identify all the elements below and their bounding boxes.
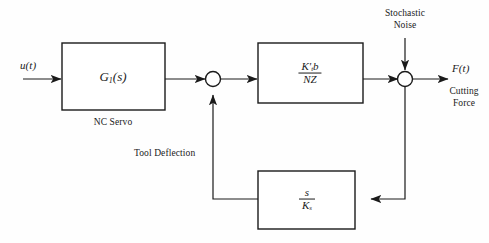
nc-servo-expr-tail: (s)	[113, 69, 127, 84]
block-diagram-canvas: u(t) G1(s) NC Servo K'tb NZ s Ks Stochas…	[0, 0, 489, 243]
output-caption-line2: Force	[453, 98, 475, 109]
signal-feedback-tap-down	[371, 87, 405, 199]
process-gain-denominator: NZ	[298, 74, 321, 86]
summing-junction-right	[398, 72, 413, 87]
disturbance-label-line2: Noise	[394, 20, 417, 31]
deflection-feedback-fraction: s Ks	[299, 187, 315, 212]
block-expression-nc-servo: G1(s)	[99, 69, 126, 85]
diagram-vector-layer	[0, 0, 489, 243]
block-expression-process-gain: K'tb NZ	[298, 61, 321, 86]
feedback-signal-label: Tool Deflection	[134, 148, 195, 159]
nc-servo-expr-main: G	[99, 69, 108, 84]
signal-feedback-to-sum-left	[213, 95, 258, 199]
output-caption-line1: Cutting	[449, 86, 478, 97]
deflection-feedback-denominator: Ks	[299, 199, 315, 211]
block-expression-deflection-feedback: s Ks	[299, 187, 315, 212]
input-signal-label: u(t)	[20, 59, 36, 71]
summing-junction-left	[206, 72, 221, 87]
process-gain-num-tail: b	[313, 60, 319, 72]
disturbance-label-line1: Stochastic	[385, 8, 425, 19]
process-gain-fraction: K'tb NZ	[298, 61, 321, 86]
deflection-feedback-den-sub: s	[309, 204, 312, 211]
output-signal-label: F(t)	[452, 62, 470, 74]
block-caption-nc-servo: NC Servo	[94, 117, 133, 128]
